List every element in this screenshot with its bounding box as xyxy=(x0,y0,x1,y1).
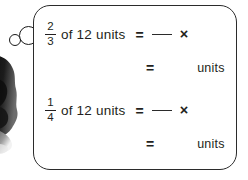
problem-2-result-unit-label: units xyxy=(197,137,224,151)
worksheet-canvas: 2 3 of 12 units = × = units 1 xyxy=(0,0,248,180)
problem-1-equation-row: 2 3 of 12 units = × xyxy=(45,21,188,48)
student-silhouette xyxy=(0,55,34,173)
problem-2-denominator: 4 xyxy=(46,112,54,124)
problem-box: 2 3 of 12 units = × = units 1 xyxy=(33,5,237,170)
problem-1-phrase: of 12 units xyxy=(61,27,126,42)
problem-2-equals-sign: = xyxy=(136,103,144,119)
problem-2-fraction: 1 4 xyxy=(45,97,56,124)
problem-rows: 2 3 of 12 units = × = units 1 xyxy=(34,6,236,169)
problem-2-result-row: = units xyxy=(45,136,225,152)
problem-1-result-unit-label: units xyxy=(197,61,224,75)
problem-1-multiply-icon: × xyxy=(180,27,188,42)
problem-2-answer-blank[interactable] xyxy=(152,110,172,112)
problem-1-result-row: = units xyxy=(45,60,225,76)
problem-1-numerator: 2 xyxy=(46,21,54,33)
problem-2-multiply-icon: × xyxy=(180,103,188,118)
problem-1-denominator: 3 xyxy=(46,36,54,48)
problem-2-phrase: of 12 units xyxy=(61,103,126,118)
problem-1-result-equals-sign: = xyxy=(146,60,154,76)
problem-2-result-equals-sign: = xyxy=(146,136,154,152)
problem-1-fraction: 2 3 xyxy=(45,21,56,48)
problem-2-numerator: 1 xyxy=(46,97,54,109)
problem-1-answer-blank[interactable] xyxy=(152,34,172,36)
problem-2-equation-row: 1 4 of 12 units = × xyxy=(45,97,188,124)
problem-1-equals-sign: = xyxy=(136,27,144,43)
